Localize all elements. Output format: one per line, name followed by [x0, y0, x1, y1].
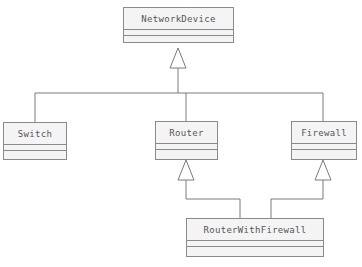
operations-compartment — [187, 247, 323, 254]
generalization-arrowhead-network-device — [170, 48, 186, 68]
operations-compartment — [4, 151, 66, 158]
operations-compartment — [156, 150, 217, 157]
class-firewall[interactable]: Firewall — [291, 121, 357, 160]
generalization-arrowhead-firewall — [315, 160, 331, 180]
class-name: NetworkDevice — [124, 8, 233, 30]
class-switch[interactable]: Switch — [3, 122, 67, 160]
class-name: Router — [156, 122, 217, 144]
class-network-device[interactable]: NetworkDevice — [123, 7, 234, 43]
class-router-with-firewall[interactable]: RouterWithFirewall — [186, 218, 324, 257]
operations-compartment — [292, 150, 356, 157]
generalization-arrowhead-router — [178, 160, 194, 180]
operations-compartment — [124, 36, 233, 43]
class-router[interactable]: Router — [155, 121, 218, 160]
class-name: Firewall — [292, 122, 356, 144]
class-name: RouterWithFirewall — [187, 219, 323, 241]
class-name: Switch — [4, 123, 66, 145]
